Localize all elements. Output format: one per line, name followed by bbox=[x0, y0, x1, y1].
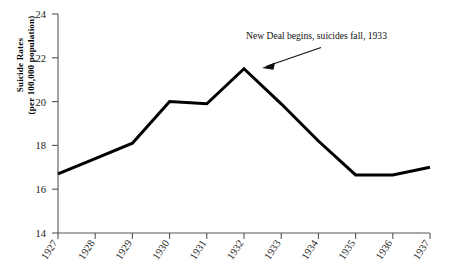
chart-canvas: 24 22 20 18 16 14 1927 1928 1929 1930 bbox=[0, 0, 449, 275]
y-tick-label-18: 18 bbox=[36, 140, 47, 151]
y-tick-label-14: 14 bbox=[36, 228, 47, 239]
chart-background bbox=[0, 0, 449, 275]
y-tick-label-16: 16 bbox=[36, 184, 47, 195]
y-tick-label-22: 22 bbox=[36, 53, 47, 64]
annotation-label: New Deal begins, suicides fall, 1933 bbox=[246, 30, 387, 41]
y-tick-label-20: 20 bbox=[36, 97, 47, 108]
y-tick-label-24: 24 bbox=[36, 9, 47, 20]
suicide-rates-line-chart: Suicide Rates (per 100,000 population) 2… bbox=[0, 0, 449, 275]
